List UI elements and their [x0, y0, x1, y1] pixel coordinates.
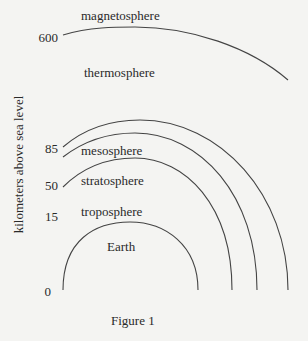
- tick-85: 85: [34, 142, 58, 155]
- earth-boundary-arc: [63, 222, 198, 290]
- label-troposphere: troposphere: [81, 205, 142, 218]
- label-stratosphere: stratosphere: [81, 174, 144, 187]
- label-magnetosphere: magnetosphere: [81, 9, 160, 22]
- label-mesosphere: mesosphere: [81, 144, 142, 157]
- y-axis-label: kilometers above sea level: [12, 85, 25, 245]
- label-earth: Earth: [107, 240, 135, 253]
- label-thermosphere: thermosphere: [84, 66, 155, 79]
- tick-600: 600: [34, 31, 58, 44]
- tick-0: 0: [27, 285, 51, 298]
- figure-caption-text: Figure 1: [111, 314, 155, 327]
- tick-15: 15: [34, 210, 58, 223]
- tick-50: 50: [34, 179, 58, 192]
